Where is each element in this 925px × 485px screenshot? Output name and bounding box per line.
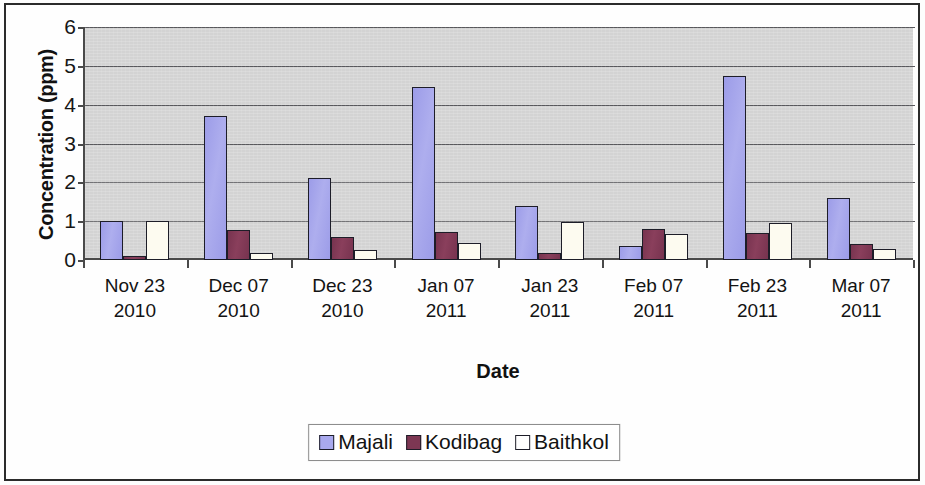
y-tick-label: 0 <box>64 248 76 272</box>
x-tick-mark <box>83 260 85 268</box>
legend-item-kodibag[interactable]: Kodibag <box>406 430 502 454</box>
y-axis-title: Concentration (ppm) <box>35 10 58 280</box>
bar-kodibag-6[interactable] <box>642 229 665 260</box>
bar-group <box>498 27 602 260</box>
chart-canvas: Concentration (ppm) 0123456 Nov 232010De… <box>6 5 922 483</box>
x-axis-category-label: Feb 232011 <box>706 273 810 323</box>
x-axis-tick-labels: Nov 232010Dec 072010Dec 232010Jan 072011… <box>83 273 913 323</box>
bar-majali-7[interactable] <box>723 76 746 260</box>
category-month-day: Jan 07 <box>418 275 475 296</box>
x-axis-category-label: Jan 232011 <box>498 273 602 323</box>
bar-baithkol-5[interactable] <box>561 222 584 260</box>
x-axis-category-label: Mar 072011 <box>809 273 913 323</box>
category-month-day: Dec 07 <box>209 275 269 296</box>
bar-baithkol-4[interactable] <box>458 243 481 260</box>
bar-majali-3[interactable] <box>308 178 331 260</box>
bar-majali-4[interactable] <box>412 87 435 260</box>
bar-group <box>83 27 187 260</box>
bar-group <box>291 27 395 260</box>
legend-item-baithkol[interactable]: Baithkol <box>515 430 609 454</box>
bar-baithkol-8[interactable] <box>873 249 896 260</box>
bar-kodibag-5[interactable] <box>538 253 561 260</box>
chart-screenshot: Concentration (ppm) 0123456 Nov 232010De… <box>0 0 925 485</box>
x-tick-mark <box>394 260 396 268</box>
bar-baithkol-6[interactable] <box>665 234 688 260</box>
x-tick-mark <box>602 260 604 268</box>
chart-legend: MajaliKodibagBaithkol <box>308 424 620 461</box>
figure-border: Concentration (ppm) 0123456 Nov 232010De… <box>4 3 920 481</box>
category-year: 2011 <box>602 298 706 323</box>
bar-majali-2[interactable] <box>204 116 227 260</box>
category-month-day: Nov 23 <box>105 275 165 296</box>
x-tick-mark <box>809 260 811 268</box>
x-axis-category-label: Dec 072010 <box>187 273 291 323</box>
category-month-day: Dec 23 <box>312 275 372 296</box>
bar-kodibag-4[interactable] <box>435 232 458 260</box>
x-tick-mark <box>913 260 915 268</box>
legend-label-majali: Majali <box>338 430 393 454</box>
x-axis-title: Date <box>83 360 913 383</box>
bar-group <box>602 27 706 260</box>
y-tick-label: 3 <box>64 131 76 155</box>
y-tick-label: 6 <box>64 15 76 39</box>
bar-group <box>809 27 913 260</box>
x-axis-ticks <box>83 260 913 268</box>
category-year: 2011 <box>498 298 602 323</box>
category-month-day: Jan 23 <box>521 275 578 296</box>
y-tick-label: 4 <box>64 92 76 116</box>
category-year: 2011 <box>394 298 498 323</box>
category-year: 2010 <box>291 298 395 323</box>
y-tick-label: 5 <box>64 53 76 77</box>
bar-group <box>187 27 291 260</box>
bar-majali-1[interactable] <box>100 221 123 260</box>
legend-swatch-kodibag <box>406 435 421 450</box>
bar-group <box>394 27 498 260</box>
bar-baithkol-7[interactable] <box>769 223 792 260</box>
category-year: 2010 <box>187 298 291 323</box>
legend-swatch-majali <box>319 435 334 450</box>
x-tick-mark <box>291 260 293 268</box>
y-tick-label: 1 <box>64 209 76 233</box>
bar-baithkol-2[interactable] <box>250 253 273 260</box>
bar-kodibag-1[interactable] <box>123 256 146 260</box>
bar-kodibag-3[interactable] <box>331 237 354 260</box>
category-year: 2010 <box>83 298 187 323</box>
legend-label-kodibag: Kodibag <box>425 430 502 454</box>
x-axis-category-label: Jan 072011 <box>394 273 498 323</box>
category-month-day: Feb 23 <box>728 275 787 296</box>
category-year: 2011 <box>809 298 913 323</box>
bar-majali-5[interactable] <box>515 206 538 260</box>
bar-kodibag-8[interactable] <box>850 244 873 260</box>
category-year: 2011 <box>706 298 810 323</box>
bar-group <box>706 27 810 260</box>
legend-label-baithkol: Baithkol <box>534 430 609 454</box>
bar-baithkol-3[interactable] <box>354 250 377 260</box>
bar-majali-6[interactable] <box>619 246 642 260</box>
legend-swatch-baithkol <box>515 435 530 450</box>
y-tick-label: 2 <box>64 170 76 194</box>
bar-baithkol-1[interactable] <box>146 221 169 260</box>
category-month-day: Mar 07 <box>832 275 891 296</box>
bar-kodibag-7[interactable] <box>746 233 769 260</box>
bar-majali-8[interactable] <box>827 198 850 260</box>
bar-groups <box>83 27 913 260</box>
x-tick-mark <box>498 260 500 268</box>
x-axis-category-label: Dec 232010 <box>291 273 395 323</box>
legend-item-majali[interactable]: Majali <box>319 430 393 454</box>
x-tick-mark <box>187 260 189 268</box>
x-tick-mark <box>706 260 708 268</box>
x-axis-category-label: Nov 232010 <box>83 273 187 323</box>
x-axis-category-label: Feb 072011 <box>602 273 706 323</box>
plot-area-wrapper: 0123456 <box>83 27 913 260</box>
bar-kodibag-2[interactable] <box>227 230 250 260</box>
category-month-day: Feb 07 <box>624 275 683 296</box>
